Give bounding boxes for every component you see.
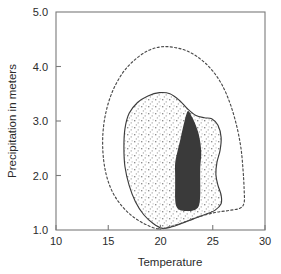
x-tick-label: 15 (102, 235, 114, 247)
y-tick-label: 4.0 (33, 61, 48, 73)
contour-plot-figure: 1015202530 1.02.03.04.05.0 Temperature P… (0, 0, 281, 274)
x-tick-label: 20 (154, 235, 166, 247)
x-tick-label: 10 (50, 235, 62, 247)
y-tick-label: 5.0 (33, 6, 48, 18)
y-tick-label: 3.0 (33, 115, 48, 127)
plot-svg: 1015202530 1.02.03.04.05.0 Temperature P… (0, 0, 281, 274)
x-tick-label: 30 (259, 235, 271, 247)
y-tick-label: 1.0 (33, 224, 48, 236)
x-tick-label: 25 (207, 235, 219, 247)
y-tick-label: 2.0 (33, 170, 48, 182)
x-axis-title: Temperature (138, 256, 203, 268)
y-axis-title: Precipitation in meters (6, 64, 18, 178)
